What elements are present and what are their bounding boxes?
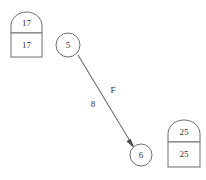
node-house-left[interactable]: 17 17 — [11, 12, 42, 57]
house-left-arch-label: 17 — [22, 18, 32, 28]
node-circle-6[interactable]: 6 — [130, 144, 152, 166]
diagram-svg: 17 17 5 F 8 6 25 25 — [0, 0, 206, 180]
diagram-canvas: 17 17 5 F 8 6 25 25 — [0, 0, 206, 180]
edge-5-to-6-line — [78, 55, 133, 146]
node-house-right[interactable]: 25 25 — [168, 120, 200, 167]
house-left-box-label: 17 — [22, 40, 32, 50]
house-right-box-label: 25 — [180, 149, 190, 159]
edge-5-to-6-name-label: F — [110, 85, 115, 95]
edge-5-to-6[interactable]: F 8 — [78, 55, 135, 149]
circle-6-label: 6 — [139, 150, 144, 160]
house-right-arch-label: 25 — [180, 127, 190, 137]
edge-5-to-6-weight-label: 8 — [91, 99, 96, 109]
node-circle-5[interactable]: 5 — [56, 33, 80, 57]
circle-5-label: 5 — [66, 40, 71, 50]
